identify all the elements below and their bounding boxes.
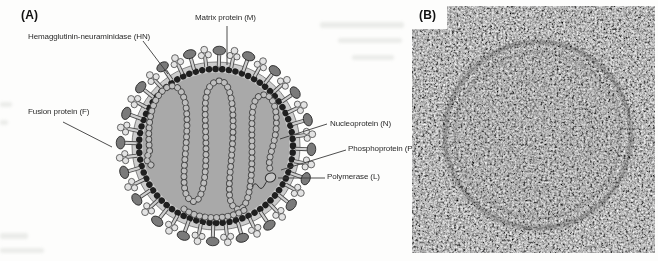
f-spike-head — [277, 78, 283, 84]
hn-spike-head — [300, 171, 312, 186]
f-spike-head — [172, 55, 179, 62]
f-spike-head — [116, 154, 123, 161]
f-spike-head — [254, 231, 261, 238]
f-spike-head — [148, 78, 154, 84]
hn-spike-head — [120, 106, 132, 121]
f-spike-head — [282, 83, 288, 89]
bleed-smudge — [0, 248, 44, 253]
panel-b-micrograph: (B) — [412, 6, 655, 253]
f-spike-head — [234, 54, 240, 60]
hn-spike-head — [176, 230, 191, 242]
f-spike-head — [171, 61, 177, 67]
f-spike-head — [279, 214, 286, 221]
f-spike-head — [260, 65, 266, 71]
f-spike-head — [131, 185, 137, 191]
bleed-smudge — [0, 120, 8, 125]
em-noise-overlay — [412, 6, 655, 253]
hn-spike-head — [302, 112, 314, 126]
hn-spike-head — [206, 237, 219, 246]
f-spike-head — [142, 209, 149, 216]
callout-fusion-protein: Fusion protein (F) — [28, 107, 89, 116]
f-spike-head — [146, 72, 153, 79]
hn-spike-head — [307, 143, 316, 156]
bleed-smudge — [0, 233, 28, 239]
hn-spike-head — [213, 46, 226, 55]
panel-b-label: (B) — [419, 8, 436, 22]
hn-spike-head — [241, 50, 256, 62]
f-spike-head — [255, 224, 261, 230]
callout-matrix-protein: Matrix protein (M) — [195, 13, 256, 22]
f-spike-head — [117, 124, 124, 131]
f-spike-head — [297, 190, 304, 197]
f-spike-head — [284, 76, 291, 83]
f-spike-head — [291, 190, 297, 196]
bleed-smudge — [320, 22, 404, 28]
f-spike-head — [301, 102, 308, 109]
f-spike-head — [231, 47, 238, 54]
hn-spike-head — [235, 232, 249, 244]
f-spike-head — [148, 208, 154, 214]
bleed-smudge — [338, 38, 402, 43]
f-spike-head — [124, 122, 130, 128]
callout-nucleoprotein: Nucleoprotein (N) — [330, 119, 391, 128]
f-spike-head — [135, 95, 141, 101]
hn-spike-head — [182, 48, 196, 60]
bleed-smudge — [0, 102, 12, 107]
panel-b-label-box: (B) — [412, 6, 447, 29]
hn-spike-head — [118, 165, 130, 179]
f-spike-head — [128, 96, 135, 103]
f-spike-head — [302, 164, 308, 170]
leader-line — [63, 122, 112, 147]
f-spike-head — [192, 232, 198, 238]
hn-spike-head — [116, 136, 125, 149]
f-spike-head — [144, 203, 150, 209]
f-spike-head — [194, 238, 201, 245]
f-spike-head — [153, 74, 159, 80]
figure: (A) Hemagglutinin-neuraminidase (HN) Mat… — [0, 0, 658, 261]
callout-hemagglutinin-neuraminidase: Hemagglutinin-neuraminidase (HN) — [28, 32, 150, 41]
f-spike-head — [125, 184, 132, 191]
panel-a-label: (A) — [21, 8, 38, 22]
f-spike-head — [165, 221, 171, 227]
f-spike-head — [308, 161, 315, 168]
bleed-smudge — [352, 55, 394, 60]
f-spike-head — [201, 46, 208, 53]
f-spike-head — [294, 101, 300, 107]
f-spike-head — [273, 212, 279, 218]
callout-polymerase: Polymerase (L) — [327, 172, 380, 181]
f-spike-head — [278, 207, 284, 213]
leader-line — [143, 41, 168, 74]
f-spike-head — [260, 58, 267, 65]
cryo-em-image — [412, 6, 655, 253]
f-spike-head — [166, 227, 173, 234]
callout-phosphoprotein: Phosphoprotein (P) — [348, 144, 415, 153]
f-spike-head — [224, 239, 231, 246]
f-spike-head — [309, 131, 316, 138]
